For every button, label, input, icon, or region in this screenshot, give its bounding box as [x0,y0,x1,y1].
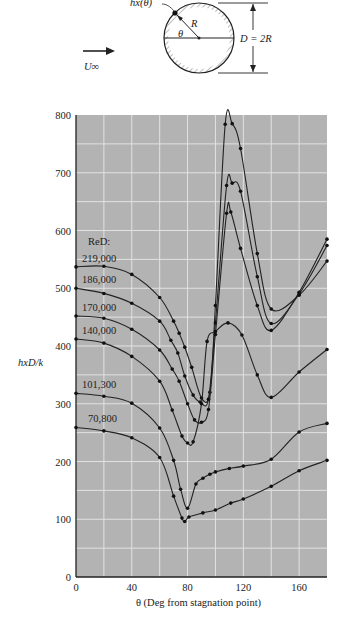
data-point [74,392,78,396]
data-point [130,301,134,305]
data-point [186,441,190,445]
data-point [325,244,329,248]
data-point [130,436,134,440]
data-point [130,401,134,405]
data-point [74,337,78,341]
y-tick-label: 0 [66,572,71,583]
data-point [186,402,190,406]
data-point [191,393,195,397]
data-point [177,331,181,335]
data-point [325,348,329,352]
series-label: 140,000 [82,325,116,336]
data-point [130,273,134,277]
data-point [170,367,174,371]
data-point [214,470,218,474]
y-tick-label: 500 [55,283,71,294]
data-point [229,210,233,214]
data-point [239,247,243,251]
data-point [226,321,230,325]
data-point [102,292,106,296]
data-point [180,434,184,438]
data-point [183,520,187,524]
data-point [230,122,234,126]
data-point [183,345,187,349]
series-label: 186,000 [82,274,116,285]
cylinder-diagram: hx(θ) R θ D = 2R U∞ [83,0,272,73]
data-point [208,472,212,476]
flow-arrow-icon [106,47,115,55]
data-point [170,408,174,412]
data-point [200,420,204,424]
data-point [102,429,106,433]
radius-label: R [190,18,198,29]
data-point [297,290,301,294]
data-point [74,265,78,269]
x-tick-label: 0 [73,582,78,593]
plot-area: 0100200300400500600700800 04080120160 21… [18,110,329,609]
data-point [186,506,190,510]
data-point [130,327,134,331]
data-point [169,338,173,342]
data-point [297,370,301,374]
flow-velocity-label: U∞ [84,61,99,72]
data-point [242,497,246,501]
data-point [74,314,78,318]
data-point [172,319,176,323]
series-label: 170,000 [82,302,116,313]
data-point [158,426,162,430]
y-axis-label: hxD/k [18,357,43,368]
data-point [172,494,176,498]
y-tick-label: 800 [55,110,71,121]
data-point [229,501,233,505]
x-tick-label: 160 [291,582,307,593]
dimension-arrow-down-icon [250,65,256,72]
data-point [297,469,301,473]
series-label: 70,800 [88,413,117,424]
dimension-arrow-up-icon [250,4,256,11]
data-point [158,379,162,383]
data-point [179,487,183,491]
data-point [255,252,259,256]
y-tick-label: 600 [55,226,71,237]
data-point [325,259,329,263]
x-tick-label: 40 [127,582,138,593]
data-point [325,237,329,241]
data-point [225,211,229,215]
diameter-label: D = 2R [239,33,272,44]
data-point [269,485,273,489]
data-point [180,516,184,520]
y-tick-label: 400 [55,341,71,352]
data-point [297,430,301,434]
data-point [325,422,329,426]
data-point [225,184,229,188]
y-tick-labels: 0100200300400500600700800 [55,110,71,583]
data-point [172,459,176,463]
x-tick-label: 80 [182,582,193,593]
data-point [240,333,244,337]
angle-label: θ [178,28,183,39]
y-tick-label: 300 [55,399,71,410]
measurement-point [172,10,177,15]
data-point [158,319,162,323]
data-point [102,316,106,320]
data-point [102,341,106,345]
series-label: 219,000 [82,253,116,264]
data-point [269,396,273,400]
figure: hx(θ) R θ D = 2R U∞ 01002003004005006007… [0,0,341,637]
data-point [242,464,246,468]
data-point [193,418,197,422]
legend-title: ReD: [88,236,110,247]
heat-coefficient-label: hx(θ) [130,0,153,9]
data-point [190,366,194,370]
data-point [239,147,243,151]
data-point [177,379,181,383]
data-point [255,275,259,279]
data-point [255,373,259,377]
data-point [214,508,218,512]
data-point [228,467,232,471]
x-tick-label: 120 [235,582,251,593]
x-tick-labels: 04080120160 [73,582,307,593]
data-point [158,348,162,352]
series-label: 101,300 [82,379,116,390]
data-point [158,296,162,300]
